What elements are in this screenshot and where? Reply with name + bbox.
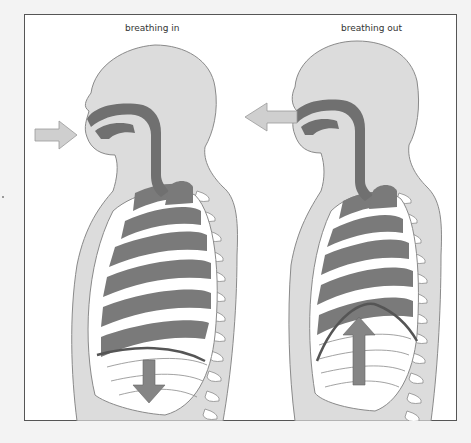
arrow-inhale-icon <box>35 121 77 149</box>
figure-breathing-out <box>245 41 441 422</box>
stray-mark <box>2 196 4 198</box>
figure-breathing-in <box>35 45 237 421</box>
arrow-exhale-icon <box>245 103 297 131</box>
diagram-frame: breathing in breathing out <box>24 14 457 421</box>
